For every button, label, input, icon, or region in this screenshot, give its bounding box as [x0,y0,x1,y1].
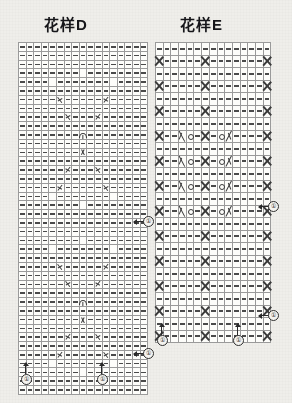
chart-cell[interactable] [209,168,217,181]
chart-cell[interactable] [232,93,240,106]
chart-cell[interactable] [49,43,57,52]
chart-cell[interactable] [56,122,64,131]
chart-cell[interactable] [72,218,80,227]
chart-cell[interactable] [117,201,125,210]
chart-cell[interactable] [110,289,118,298]
chart-cell[interactable] [26,289,34,298]
chart-cell[interactable] [140,86,148,95]
chart-cell[interactable] [26,298,34,307]
chart-cell[interactable] [240,180,248,193]
chart-cell[interactable] [79,113,87,122]
chart-cell[interactable] [248,280,256,293]
chart-cell[interactable] [49,95,57,104]
chart-cell[interactable] [217,93,225,106]
chart-cell[interactable] [87,166,95,175]
chart-cell[interactable] [232,130,240,143]
chart-cell[interactable] [217,330,225,343]
chart-cell[interactable] [194,43,202,56]
chart-cell[interactable] [217,255,225,268]
chart-cell[interactable] [72,324,80,333]
chart-cell[interactable] [26,315,34,324]
chart-cell[interactable] [171,155,179,168]
chart-cell[interactable] [26,210,34,219]
chart-cell[interactable] [72,236,80,245]
chart-cell[interactable] [34,324,42,333]
chart-cell[interactable] [209,43,217,56]
chart-cell[interactable] [102,69,110,78]
chart-cell[interactable] [232,118,240,131]
chart-cell[interactable] [209,255,217,268]
chart-cell[interactable] [194,143,202,156]
chart-cell[interactable] [64,166,72,175]
chart-cell[interactable] [125,139,133,148]
chart-cell[interactable] [19,69,27,78]
chart-cell[interactable] [41,113,49,122]
chart-cell[interactable] [248,80,256,93]
chart-cell[interactable] [232,68,240,81]
chart-cell[interactable] [41,386,49,395]
chart-cell[interactable] [202,118,210,131]
chart-cell[interactable] [232,155,240,168]
chart-cell[interactable] [79,122,87,131]
chart-cell[interactable] [34,342,42,351]
chart-cell[interactable] [140,113,148,122]
chart-cell[interactable] [79,306,87,315]
chart-cell[interactable] [41,368,49,377]
chart-cell[interactable] [232,293,240,306]
chart-cell[interactable] [240,318,248,331]
chart-cell[interactable] [56,236,64,245]
chart-cell[interactable] [26,227,34,236]
chart-cell[interactable] [263,280,271,293]
chart-cell[interactable] [232,43,240,56]
chart-cell[interactable] [19,289,27,298]
chart-cell[interactable] [248,180,256,193]
chart-cell[interactable] [248,93,256,106]
chart-cell[interactable] [79,139,87,148]
chart-cell[interactable] [140,298,148,307]
chart-cell[interactable] [79,350,87,359]
chart-cell[interactable] [64,122,72,131]
chart-cell[interactable] [110,113,118,122]
chart-cell[interactable] [163,55,171,68]
chart-cell[interactable] [34,43,42,52]
chart-cell[interactable] [72,157,80,166]
chart-cell[interactable] [156,130,164,143]
chart-cell[interactable] [186,55,194,68]
chart-cell[interactable] [56,43,64,52]
chart-cell[interactable] [64,271,72,280]
chart-cell[interactable] [132,78,140,87]
chart-cell[interactable] [56,262,64,271]
chart-cell[interactable] [19,104,27,113]
chart-cell[interactable] [179,268,187,281]
chart-cell[interactable] [171,55,179,68]
chart-cell[interactable] [56,254,64,263]
chart-cell[interactable] [186,130,194,143]
chart-cell[interactable] [117,69,125,78]
chart-cell[interactable] [41,69,49,78]
chart-cell[interactable] [94,148,102,157]
chart-cell[interactable] [19,386,27,395]
chart-cell[interactable] [79,386,87,395]
chart-cell[interactable] [64,236,72,245]
chart-cell[interactable] [125,130,133,139]
chart-cell[interactable] [34,113,42,122]
chart-cell[interactable] [26,218,34,227]
chart-cell[interactable] [79,236,87,245]
chart-cell[interactable] [194,218,202,231]
chart-cell[interactable] [140,306,148,315]
chart-cell[interactable] [125,166,133,175]
chart-cell[interactable] [56,104,64,113]
chart-cell[interactable] [140,69,148,78]
chart-cell[interactable] [163,143,171,156]
chart-cell[interactable] [72,130,80,139]
chart-cell[interactable] [41,254,49,263]
chart-cell[interactable] [49,315,57,324]
chart-cell[interactable] [179,130,187,143]
chart-cell[interactable] [19,43,27,52]
chart-cell[interactable] [79,201,87,210]
chart-cell[interactable] [156,293,164,306]
chart-cell[interactable] [163,193,171,206]
chart-cell[interactable] [125,157,133,166]
chart-cell[interactable] [263,105,271,118]
chart-cell[interactable] [140,183,148,192]
